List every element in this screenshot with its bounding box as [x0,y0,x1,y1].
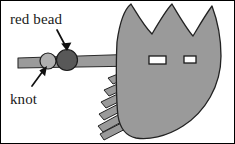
small-slot [184,56,196,63]
diagram-canvas: red bead knot [0,0,235,144]
large-slot [149,56,166,64]
knot-label: knot [10,91,38,107]
knot-shape [40,53,56,69]
red-bead-shape [57,50,78,71]
figure-container: red bead knot [0,0,235,144]
red-bead-label: red bead [10,11,62,27]
